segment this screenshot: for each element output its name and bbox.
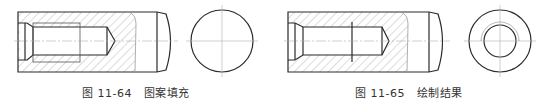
caption-number: 图 11-65 [355, 87, 405, 100]
figure-11-64 [0, 0, 272, 82]
caption-title: 绘制结果 [417, 87, 463, 100]
hatch-fill [18, 12, 136, 72]
section-drawing [272, 0, 545, 82]
section-drawing [0, 0, 272, 82]
caption-title: 图案填充 [144, 87, 190, 100]
caption-11-65: 图 11-65绘制结果 [355, 84, 463, 100]
hatch-fill [288, 12, 408, 72]
figure-11-65 [272, 0, 545, 82]
caption-number: 图 11-64 [82, 87, 132, 100]
caption-11-64: 图 11-64图案填充 [82, 84, 190, 100]
